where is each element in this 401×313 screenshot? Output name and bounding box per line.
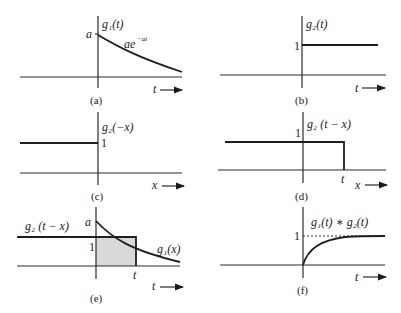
function-label-g2t: g₂(t) <box>306 17 328 31</box>
panel-b: 1 g₂(t) t (b) <box>220 16 386 107</box>
convolution-result-curve <box>303 236 385 265</box>
panel-d: 1 g₂ (t − x) t x (d) <box>218 112 387 203</box>
panel-a: a g₁(t) ae −at t (a) <box>20 16 182 107</box>
curve-exponent: −at <box>137 35 148 43</box>
y-tick-a-label: a <box>85 215 91 229</box>
function-label-g2-t-minus-x: g₂ (t − x) <box>307 117 351 131</box>
caption-c: (c) <box>91 190 104 203</box>
function-label-convolution: g₁(t) ∗ g₂(t) <box>311 215 368 229</box>
x-tick-t-label: t <box>133 268 137 282</box>
x-axis-label: x <box>151 178 158 192</box>
panel-e: a 1 g₂ (t − x) g₁(x) t t (e) <box>17 207 183 305</box>
y-tick-a-label: a <box>86 27 92 41</box>
x-axis-label: x <box>354 178 361 192</box>
function-label-g1x: g₁(x) <box>157 242 181 256</box>
function-label-g2-neg-x: g₂(−x) <box>102 120 134 134</box>
shifted-step-line <box>225 142 344 170</box>
caption-f: (f) <box>297 284 308 297</box>
panel-f: 1 g₁(t) ∗ g₂(t) t (f) <box>220 207 386 297</box>
y-tick-1-label: 1 <box>295 126 301 140</box>
function-label-g1t: g₁(t) <box>102 17 124 31</box>
overlap-shaded-area <box>96 237 136 266</box>
x-axis-label: t <box>355 81 359 95</box>
y-tick-1-label: 1 <box>89 240 95 254</box>
x-axis-label: t <box>152 279 156 293</box>
y-tick-1-label: 1 <box>101 136 107 150</box>
panel-c: 1 g₂(−x) x (c) <box>20 112 184 203</box>
convolution-figure: a g₁(t) ae −at t (a) 1 g₂(t) t (b) 1 g₂(… <box>0 0 401 313</box>
y-tick-1-label: 1 <box>294 39 300 53</box>
y-tick-1-label: 1 <box>294 229 300 243</box>
x-axis-label: t <box>153 82 157 96</box>
x-axis-label: t <box>355 270 359 284</box>
caption-d: (d) <box>295 190 308 203</box>
function-label-g2-t-minus-x: g₂ (t − x) <box>25 219 69 233</box>
caption-e: (e) <box>90 292 103 305</box>
caption-a: (a) <box>90 94 103 107</box>
curve-label: ae <box>124 37 136 51</box>
x-tick-t-label: t <box>341 172 345 186</box>
caption-b: (b) <box>295 94 308 107</box>
